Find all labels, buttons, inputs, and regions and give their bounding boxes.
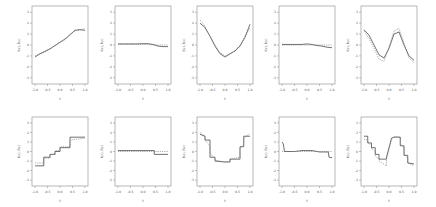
true-function-line bbox=[364, 30, 414, 61]
x-tick-label: 1.0 bbox=[329, 88, 334, 92]
y-tick-label: -3 bbox=[26, 178, 29, 182]
y-tick-label: 2 bbox=[274, 131, 276, 135]
y-tick-label: -2 bbox=[191, 169, 194, 173]
y-tick-label: -2 bbox=[26, 65, 29, 69]
x-tick-label: 0.0 bbox=[140, 190, 145, 194]
x-tick-label: -1.0 bbox=[279, 190, 285, 194]
x-tick-label: 0.5 bbox=[235, 88, 240, 92]
x-tick-label: 0.0 bbox=[57, 88, 62, 92]
panel-2: -3-2-10123-1.0-0.50.00.51.0tf(x), f̂(x) bbox=[99, 6, 171, 101]
y-axis-label: f(x), f̂(x) bbox=[16, 38, 21, 51]
panel-8: -3-2-10123-1.0-0.50.00.51.0tf(x), f̂(x) bbox=[181, 117, 253, 203]
y-tick-label: 0 bbox=[110, 150, 112, 154]
x-tick-label: 0.5 bbox=[399, 88, 404, 92]
chart-grid: -3-2-10123-1.0-0.50.00.51.0tf(x), f̂(x)-… bbox=[0, 0, 436, 207]
y-axis-label: f(x), f̂(x) bbox=[181, 145, 186, 158]
x-tick-label: -0.5 bbox=[373, 88, 379, 92]
y-axis-label: f(x), f̂(x) bbox=[345, 145, 350, 158]
x-tick-label: 0.5 bbox=[153, 190, 158, 194]
y-tick-label: 0 bbox=[27, 150, 29, 154]
x-axis-label: t bbox=[142, 97, 144, 101]
panel-1: -3-2-10123-1.0-0.50.00.51.0tf(x), f̂(x) bbox=[16, 6, 88, 101]
y-tick-label: 2 bbox=[110, 131, 112, 135]
x-axis-label: t bbox=[388, 97, 390, 101]
x-tick-label: 1.0 bbox=[165, 88, 170, 92]
y-tick-label: 3 bbox=[27, 10, 29, 14]
panel-4: -3-2-10123-1.0-0.50.00.51.0tf(x), f̂(x) bbox=[263, 6, 335, 101]
y-tick-label: 3 bbox=[27, 121, 29, 125]
x-tick-label: -1.0 bbox=[115, 88, 121, 92]
y-tick-label: 0 bbox=[192, 43, 194, 47]
y-tick-label: 3 bbox=[356, 121, 358, 125]
true-function-line bbox=[200, 134, 250, 162]
y-tick-label: -2 bbox=[109, 65, 112, 69]
y-axis-label: f(x), f̂(x) bbox=[99, 145, 104, 158]
y-tick-label: -1 bbox=[355, 159, 358, 163]
x-axis-label: t bbox=[59, 97, 61, 101]
x-axis-label: t bbox=[306, 199, 308, 203]
x-tick-label: 1.0 bbox=[411, 190, 416, 194]
y-tick-label: 1 bbox=[356, 140, 358, 144]
estimate-line bbox=[364, 136, 414, 166]
x-tick-label: -0.5 bbox=[127, 88, 133, 92]
y-tick-label: 0 bbox=[356, 150, 358, 154]
y-tick-label: -2 bbox=[273, 169, 276, 173]
plot-frame bbox=[197, 6, 253, 84]
x-tick-label: 1.0 bbox=[82, 190, 87, 194]
y-tick-label: 0 bbox=[356, 43, 358, 47]
y-tick-label: 2 bbox=[110, 21, 112, 25]
x-tick-label: 1.0 bbox=[247, 190, 252, 194]
x-tick-label: -1.0 bbox=[115, 190, 121, 194]
true-function-line bbox=[118, 151, 168, 155]
y-tick-label: -1 bbox=[191, 54, 194, 58]
y-tick-label: -3 bbox=[191, 178, 194, 182]
y-tick-label: -3 bbox=[26, 76, 29, 80]
y-tick-label: 1 bbox=[192, 140, 194, 144]
y-tick-label: -1 bbox=[109, 54, 112, 58]
x-tick-label: 0.5 bbox=[317, 190, 322, 194]
y-tick-label: -3 bbox=[273, 178, 276, 182]
y-tick-label: -2 bbox=[26, 169, 29, 173]
x-tick-label: 0.0 bbox=[57, 190, 62, 194]
x-tick-label: 0.5 bbox=[235, 190, 240, 194]
y-axis-label: f(x), f̂(x) bbox=[345, 38, 350, 51]
y-tick-label: 1 bbox=[274, 140, 276, 144]
y-tick-label: 1 bbox=[27, 32, 29, 36]
y-tick-label: 2 bbox=[192, 21, 194, 25]
y-tick-label: 3 bbox=[192, 121, 194, 125]
y-tick-label: -3 bbox=[355, 178, 358, 182]
y-tick-label: 1 bbox=[27, 140, 29, 144]
x-axis-label: t bbox=[388, 199, 390, 203]
estimate-line bbox=[35, 138, 85, 163]
y-tick-label: -3 bbox=[355, 76, 358, 80]
x-tick-label: 0.0 bbox=[222, 88, 227, 92]
x-tick-label: -1.0 bbox=[279, 88, 285, 92]
y-tick-label: -3 bbox=[109, 76, 112, 80]
x-tick-label: 1.0 bbox=[165, 190, 170, 194]
plot-frame bbox=[361, 6, 417, 84]
y-tick-label: 3 bbox=[274, 10, 276, 14]
x-axis-label: t bbox=[306, 97, 308, 101]
x-tick-label: 0.0 bbox=[222, 190, 227, 194]
y-tick-label: -2 bbox=[355, 65, 358, 69]
y-tick-label: 1 bbox=[356, 32, 358, 36]
x-tick-label: 0.5 bbox=[317, 88, 322, 92]
x-axis-label: t bbox=[142, 199, 144, 203]
x-tick-label: -1.0 bbox=[32, 88, 38, 92]
y-tick-label: 1 bbox=[110, 32, 112, 36]
y-tick-label: -3 bbox=[191, 76, 194, 80]
y-tick-label: 3 bbox=[110, 121, 112, 125]
y-tick-label: 3 bbox=[192, 10, 194, 14]
y-tick-label: 1 bbox=[274, 32, 276, 36]
y-tick-label: 2 bbox=[192, 131, 194, 135]
y-tick-label: 1 bbox=[110, 140, 112, 144]
x-axis-label: t bbox=[59, 199, 61, 203]
y-tick-label: 2 bbox=[356, 21, 358, 25]
y-tick-label: 3 bbox=[274, 121, 276, 125]
y-tick-label: -3 bbox=[109, 178, 112, 182]
y-tick-label: 0 bbox=[110, 43, 112, 47]
x-tick-label: -0.5 bbox=[209, 190, 215, 194]
x-tick-label: -1.0 bbox=[32, 190, 38, 194]
x-tick-label: -0.5 bbox=[127, 190, 133, 194]
x-tick-label: 1.0 bbox=[411, 88, 416, 92]
